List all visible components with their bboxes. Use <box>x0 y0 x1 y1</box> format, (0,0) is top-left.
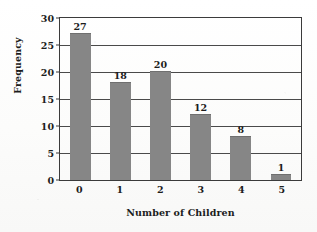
y-tick-label: 30 <box>41 13 54 24</box>
bar-value-label: 12 <box>194 102 207 113</box>
x-tick-label: 4 <box>221 184 262 195</box>
x-axis-ticks: 012345 <box>59 184 302 195</box>
y-tick-label: 15 <box>41 94 54 105</box>
bar-slot: 8 <box>221 18 261 180</box>
y-tick-label: 20 <box>41 67 54 78</box>
y-tick-label: 25 <box>41 40 54 51</box>
bar-value-label: 27 <box>73 21 86 32</box>
bar[interactable]: 27 <box>70 33 91 180</box>
bar[interactable]: 20 <box>150 71 171 180</box>
bar-value-label: 20 <box>154 59 167 70</box>
y-tick-label: 0 <box>47 175 54 186</box>
y-tick-label: 5 <box>47 148 54 159</box>
y-tick-label: 10 <box>41 121 54 132</box>
bar[interactable]: 18 <box>110 82 131 180</box>
x-tick-label: 2 <box>140 184 181 195</box>
x-tick-label: 0 <box>59 184 100 195</box>
x-tick-label: 5 <box>262 184 303 195</box>
bar[interactable]: 8 <box>230 136 251 180</box>
bar-slot: 27 <box>60 18 100 180</box>
bar-slot: 18 <box>100 18 140 180</box>
x-tick-label: 1 <box>100 184 141 195</box>
bar-value-label: 8 <box>237 124 244 135</box>
x-tick-label: 3 <box>181 184 222 195</box>
bar-slot: 1 <box>261 18 301 180</box>
y-axis-title: Frequency <box>12 16 23 116</box>
bar-slot: 12 <box>181 18 221 180</box>
bar[interactable]: 1 <box>271 174 292 180</box>
x-axis-title: Number of Children <box>59 207 302 218</box>
plot-area: 051015202530 2718201281 <box>59 17 302 181</box>
bar-value-label: 18 <box>114 70 127 81</box>
bar-chart: Frequency 051015202530 2718201281 012345… <box>0 0 317 232</box>
bars-layer: 2718201281 <box>60 18 301 180</box>
bar-value-label: 1 <box>278 162 285 173</box>
bar-slot: 20 <box>140 18 180 180</box>
bar[interactable]: 12 <box>190 114 211 180</box>
